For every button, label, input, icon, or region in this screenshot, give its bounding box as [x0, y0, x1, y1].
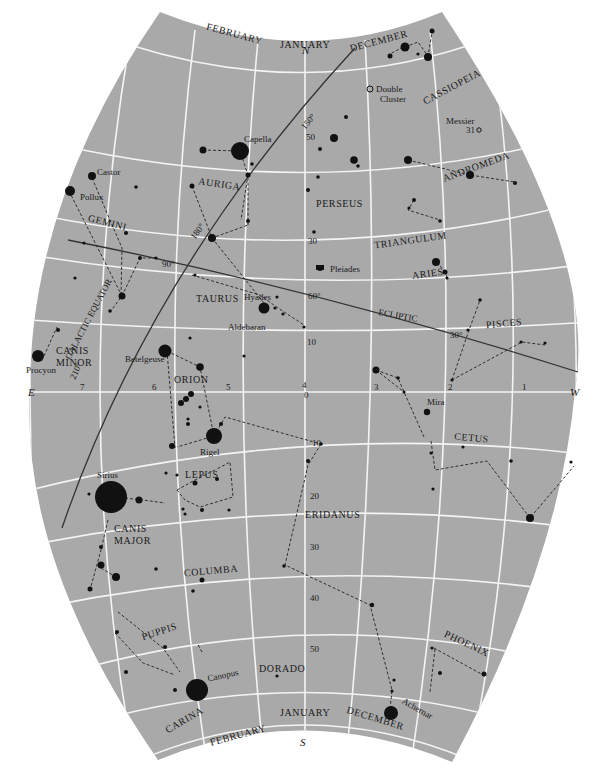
- svg-text:30°: 30°: [450, 330, 463, 340]
- svg-text:Hyades: Hyades: [244, 292, 271, 302]
- label-perseus: PERSEUS: [316, 198, 363, 209]
- svg-text:Procyon: Procyon: [26, 365, 56, 375]
- svg-text:1: 1: [522, 382, 527, 392]
- label-canis-major-2: MAJOR: [114, 535, 151, 546]
- svg-text:10: 10: [307, 337, 317, 347]
- svg-text:Betelgeuse: Betelgeuse: [125, 354, 165, 364]
- svg-text:50: 50: [306, 132, 316, 142]
- svg-text:0: 0: [304, 390, 309, 400]
- svg-text:Capella: Capella: [244, 134, 272, 144]
- label-eridanus: ERIDANUS: [305, 509, 360, 520]
- label-taurus: TAURUS: [196, 293, 239, 304]
- label-dorado: DORADO: [259, 663, 305, 674]
- svg-text:20: 20: [310, 491, 320, 501]
- svg-text:90°: 90°: [162, 259, 175, 269]
- svg-text:6: 6: [152, 382, 157, 392]
- svg-text:Double: Double: [376, 84, 403, 94]
- svg-text:2: 2: [448, 382, 453, 392]
- svg-text:Aldebaran: Aldebaran: [228, 322, 266, 332]
- svg-text:31: 31: [466, 125, 475, 135]
- svg-text:Rigel: Rigel: [200, 447, 220, 457]
- direction-north: N: [301, 44, 310, 56]
- svg-text:5: 5: [226, 382, 231, 392]
- svg-text:30: 30: [308, 236, 318, 246]
- label-canis-minor-2: MINOR: [56, 357, 92, 368]
- label-orion: ORION: [174, 374, 209, 385]
- svg-text:4: 4: [302, 380, 307, 390]
- svg-text:Pollux: Pollux: [80, 192, 104, 202]
- svg-text:Sirius: Sirius: [97, 470, 119, 480]
- direction-south: S: [300, 736, 306, 748]
- svg-text:Cluster: Cluster: [380, 94, 406, 104]
- label-canis-major-1: CANIS: [114, 523, 147, 534]
- svg-text:30: 30: [310, 542, 320, 552]
- pleiades-icon: [316, 265, 324, 270]
- month-label-january-bottom: JANUARY: [280, 707, 330, 718]
- label-lepus: LEPUS: [185, 469, 219, 480]
- svg-text:Pleiades: Pleiades: [330, 264, 360, 274]
- svg-text:40: 40: [310, 593, 320, 603]
- svg-text:Mira: Mira: [427, 397, 445, 407]
- svg-text:3: 3: [374, 382, 379, 392]
- label-canis-minor-1: CANIS: [56, 345, 89, 356]
- svg-text:50: 50: [310, 644, 320, 654]
- direction-west: W: [570, 386, 580, 398]
- svg-text:60°: 60°: [308, 291, 321, 301]
- direction-east: E: [27, 386, 35, 398]
- svg-text:7: 7: [80, 382, 85, 392]
- svg-text:Castor: Castor: [97, 167, 121, 177]
- star-chart: FEBRUARY JANUARY DECEMBER FEBRUARY JANUA…: [0, 0, 608, 780]
